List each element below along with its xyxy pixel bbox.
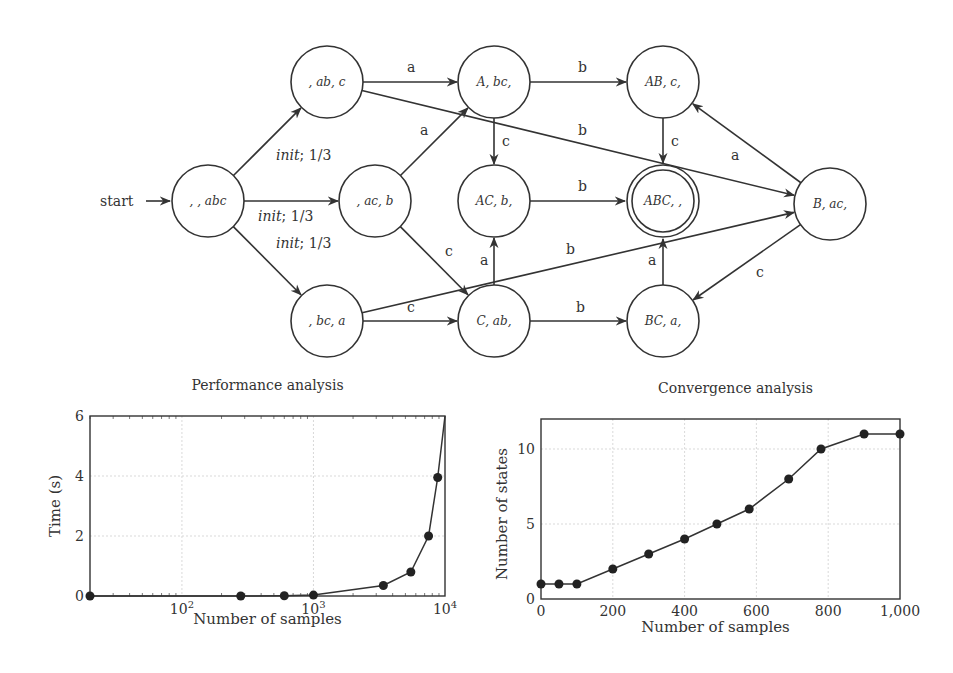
edge-label: init; 1/3	[276, 147, 331, 163]
data-point	[784, 475, 793, 484]
edge-n2-n4	[400, 108, 467, 175]
edge-label: b	[578, 59, 587, 75]
state-label: B, ac,	[812, 197, 847, 211]
edge-label: a	[731, 147, 739, 163]
edge-label: init; 1/3	[276, 235, 331, 251]
state-label: A, bc,	[476, 75, 512, 89]
y-tick-label: 6	[75, 408, 84, 424]
edge-label: a	[648, 252, 656, 268]
data-point	[236, 592, 245, 601]
data-point	[424, 532, 433, 541]
y-tick-label: 2	[75, 528, 84, 544]
x-axis-label: Number of samples	[193, 610, 342, 628]
plot-frame	[541, 419, 900, 599]
convergence-chart: Convergence analysis051002004006008001,0…	[493, 380, 920, 636]
x-tick-label: 104	[433, 599, 457, 617]
edge-label: c	[502, 133, 510, 149]
edge-label: c	[407, 299, 415, 315]
y-axis-label: Time (s)	[46, 475, 64, 537]
data-point	[817, 445, 826, 454]
x-tick-label: 800	[815, 603, 842, 619]
x-tick-label: 200	[599, 603, 626, 619]
state-node: ABC, ,	[627, 165, 699, 237]
state-node: AC, b,	[458, 165, 530, 237]
state-label: AB, c,	[644, 75, 681, 89]
plot-frame	[90, 416, 445, 596]
data-point	[406, 568, 415, 577]
state-label: , ab, c	[309, 75, 346, 89]
x-tick-label: 400	[671, 603, 698, 619]
state-diagram: , , abc, ab, c, ac, b, bc, aA, bc,AC, b,…	[100, 46, 866, 357]
state-node: , , abc	[172, 165, 244, 237]
state-node: AB, c,	[627, 46, 699, 118]
data-point	[554, 580, 563, 589]
edge-label: b	[578, 178, 587, 194]
edge-n2-n6	[400, 227, 468, 295]
data-point	[644, 550, 653, 559]
state-node: , bc, a	[291, 285, 363, 357]
data-point	[537, 580, 546, 589]
x-tick-label: 600	[743, 603, 770, 619]
x-tick-label: 0	[537, 603, 546, 619]
edge-n3-n10	[362, 212, 794, 312]
edge-n10-n9	[693, 225, 800, 300]
y-tick-label: 0	[526, 591, 535, 607]
state-label: , bc, a	[309, 314, 346, 328]
state-node: , ab, c	[291, 46, 363, 118]
y-tick-label: 10	[517, 441, 535, 457]
state-label: BC, a,	[644, 314, 681, 328]
chart-title: Performance analysis	[191, 377, 343, 393]
state-node: , ac, b	[339, 165, 411, 237]
data-point	[280, 591, 289, 600]
edge-label: b	[576, 299, 585, 315]
data-point	[680, 535, 689, 544]
state-label: AC, b,	[475, 194, 513, 208]
state-node: BC, a,	[627, 285, 699, 357]
start-label: start	[100, 193, 134, 209]
data-point	[712, 520, 721, 529]
x-axis-label: Number of samples	[641, 618, 790, 636]
figure: , , abc, ab, c, ac, b, bc, aA, bc,AC, b,…	[0, 0, 953, 673]
x-tick-label: 1,000	[880, 603, 920, 619]
edge-label: b	[578, 122, 587, 138]
data-point	[572, 580, 581, 589]
state-node: A, bc,	[458, 46, 530, 118]
edge-label: c	[756, 264, 764, 280]
y-axis-label: Number of states	[493, 448, 511, 580]
edge-label: c	[445, 243, 453, 259]
state-label: C, ab,	[476, 314, 511, 328]
edge-label: a	[420, 122, 428, 138]
edge-label: a	[407, 59, 415, 75]
edge-n0-n1	[233, 108, 300, 175]
data-point	[745, 505, 754, 514]
x-tick-label: 102	[170, 599, 194, 617]
y-tick-label: 0	[75, 588, 84, 604]
data-line	[541, 434, 900, 584]
state-label: , , abc	[190, 194, 227, 208]
y-tick-label: 4	[75, 468, 84, 484]
edge-n10-n7	[693, 104, 801, 183]
chart-title: Convergence analysis	[658, 380, 813, 396]
y-tick-label: 5	[526, 516, 535, 532]
edge-label: c	[671, 133, 679, 149]
data-point	[608, 565, 617, 574]
performance-chart: Performance analysis0246102103104Number …	[46, 377, 457, 628]
state-label: , ac, b	[357, 194, 394, 208]
edge-label: a	[480, 252, 488, 268]
data-point	[379, 581, 388, 590]
state-node: B, ac,	[794, 168, 866, 240]
data-line	[90, 416, 445, 596]
edge-label: b	[566, 241, 575, 257]
data-point	[433, 473, 442, 482]
state-label: ABC, ,	[643, 194, 682, 208]
data-point	[896, 430, 905, 439]
state-node: C, ab,	[458, 285, 530, 357]
data-point	[86, 592, 95, 601]
data-point	[860, 430, 869, 439]
data-point	[309, 591, 318, 600]
edge-label: init; 1/3	[258, 208, 313, 224]
